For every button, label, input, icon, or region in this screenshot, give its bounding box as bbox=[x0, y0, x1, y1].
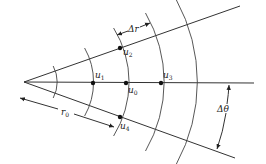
node-u2 bbox=[118, 46, 122, 50]
polar-grid-diagram: u1 u0 u3 u2 u4 Δr r0 Δθ bbox=[0, 0, 266, 164]
r0-arrow-left bbox=[20, 98, 58, 109]
delta-theta-arc-top bbox=[227, 85, 229, 104]
delta-r-arrow-left bbox=[117, 31, 128, 35]
label-delta-theta: Δθ bbox=[216, 104, 229, 114]
node-u3 bbox=[159, 81, 163, 85]
node-u4 bbox=[118, 115, 122, 119]
center-ray bbox=[24, 82, 254, 83]
node-u1 bbox=[91, 81, 95, 85]
label-delta-r: Δr bbox=[127, 24, 139, 34]
upper-ray bbox=[24, 6, 240, 82]
label-u1: u1 bbox=[95, 70, 105, 81]
r0-arrow-right bbox=[74, 114, 114, 127]
label-u3: u3 bbox=[163, 70, 173, 81]
delta-r-arrow-right bbox=[140, 23, 150, 27]
label-u2: u2 bbox=[123, 47, 133, 58]
delta-theta-arc bbox=[217, 113, 226, 149]
label-u0: u0 bbox=[128, 85, 138, 96]
label-u4: u4 bbox=[120, 121, 130, 132]
label-r0: r0 bbox=[61, 107, 69, 118]
